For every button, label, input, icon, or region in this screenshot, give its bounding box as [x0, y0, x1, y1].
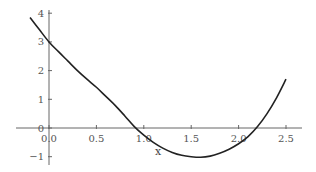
x-tick-label: 0.0 — [41, 133, 57, 144]
y-tick-label: 3 — [38, 36, 44, 47]
y-tick-label: 0 — [38, 123, 44, 134]
x-tick-label: 0.5 — [88, 133, 104, 144]
line-chart: 0.00.51.01.52.02.5−101234 x — [0, 0, 316, 172]
x-tick-label: 1.5 — [183, 133, 199, 144]
function-curve — [30, 18, 286, 158]
axes: 0.00.51.01.52.02.5−101234 — [16, 8, 302, 165]
y-tick-label: 1 — [38, 94, 44, 105]
x-axis-label: x — [155, 145, 162, 158]
y-tick-label: 2 — [38, 65, 44, 76]
x-tick-label: 2.5 — [278, 133, 294, 144]
y-tick-label: −1 — [29, 151, 44, 162]
y-tick-label: 4 — [38, 8, 44, 19]
x-tick-label: 2.0 — [231, 133, 247, 144]
